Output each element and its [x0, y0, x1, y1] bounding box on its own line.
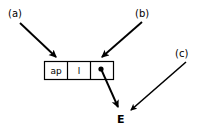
diagram-vector-layer: ap l — [0, 0, 202, 134]
node-e-label: E — [117, 114, 125, 125]
diagram-canvas: ap l (a) (b) (c) E — [0, 0, 202, 134]
cell-l-label: l — [78, 66, 81, 76]
arrow-a — [20, 23, 56, 57]
callout-label-c: (c) — [175, 48, 188, 59]
arrow-c — [131, 62, 186, 110]
cell-ap-label: ap — [50, 66, 62, 76]
callout-label-a: (a) — [8, 8, 22, 19]
arrow-b — [102, 22, 142, 57]
callout-label-b: (b) — [135, 8, 149, 19]
